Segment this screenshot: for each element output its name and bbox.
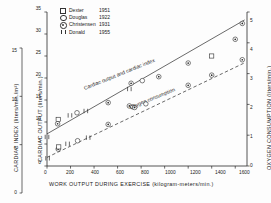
data-point-0-9 [140,78,145,83]
data-point-0-14-dot [241,23,243,25]
data-point-0-4 [75,110,80,115]
curve-annotation-1: Oxygen consumption [128,86,176,110]
data-point-1-11-dot [187,84,189,86]
data-point-0-10-dot [158,76,160,78]
data-point-1-6-dot [107,124,109,126]
series-oxygen-consumption [46,57,245,160]
data-point-0-2 [56,117,60,121]
data-point-0-12 [210,54,214,58]
data-point-0-1-dot [57,123,59,125]
data-point-1-13-dot [241,59,243,61]
data-point-0-6-dot [107,102,109,104]
data-point-0-8-dot [130,82,132,84]
data-point-0-13-dot [234,38,236,40]
data-point-0-11-dot [187,62,189,64]
chart-figure: CARDIAC INDEX (liters/min./m²) 15 10 5 0… [0,0,271,203]
series-cardiac-output [45,20,244,139]
data-point-1-2 [57,145,61,149]
curve-annotation-0: Cardiac output and cardiac index [83,57,156,91]
data-point-1-12-dot [211,74,213,76]
data-point-1-4 [75,138,80,143]
plot-area: Cardiac output and cardiac indexOxygen c… [0,0,271,203]
